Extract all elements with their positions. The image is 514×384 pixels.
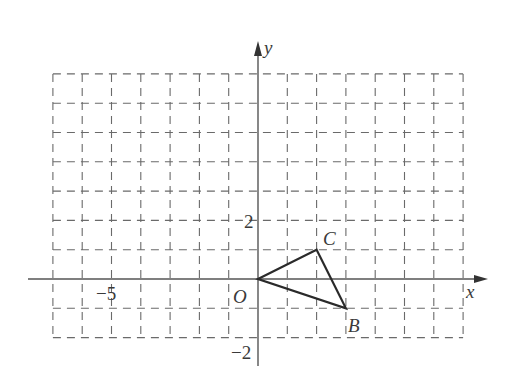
y-axis-label: y xyxy=(264,38,272,57)
tick-label-y-2: 2 xyxy=(244,212,254,231)
tick-label-x-neg5: −5 xyxy=(96,284,116,303)
axes xyxy=(28,41,488,366)
tick-label-y-neg2: −2 xyxy=(231,343,251,362)
y-axis-arrow-icon xyxy=(254,41,262,56)
x-axis-label: x xyxy=(466,282,474,301)
origin-label: O xyxy=(233,287,247,306)
coordinate-diagram: y x O −5 2 −2 C B xyxy=(0,0,514,384)
grid-plot xyxy=(0,0,514,384)
point-label-c: C xyxy=(323,229,336,248)
x-axis-arrow-icon xyxy=(474,275,488,283)
point-label-b: B xyxy=(348,316,360,335)
